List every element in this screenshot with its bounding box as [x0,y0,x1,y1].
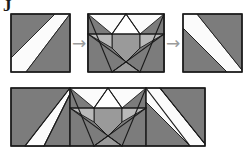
figure-canvas: J →→ [0,0,250,155]
arrow-2-icon: → [166,33,180,53]
panel-assembled-row [11,88,205,146]
figure-label-mark: J [3,0,12,14]
panel-block-middle [88,14,164,72]
panel-block-right [183,14,242,72]
arrow-1-icon: → [72,33,86,53]
geometry-diagram: →→ [0,0,250,155]
panel-block-left [11,14,70,72]
